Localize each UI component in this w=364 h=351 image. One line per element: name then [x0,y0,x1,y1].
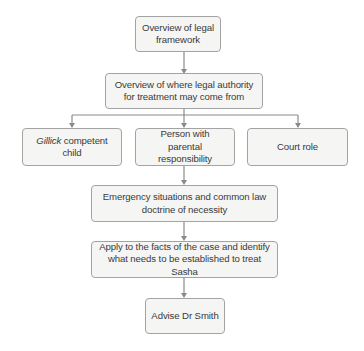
node-label: Overview of legal [142,22,214,35]
node-gillick-competent-child: Gillick competent child [22,128,122,166]
node-label: Apply to the facts of the case and ident… [96,241,273,254]
node-parental-responsibility: Person with parental responsibility [135,128,235,166]
node-label-italic: Gillick [36,135,61,146]
node-apply-facts: Apply to the facts of the case and ident… [91,241,278,278]
node-label: Emergency situations and common law [103,191,266,204]
node-legal-framework-overview: Overview of legal framework [135,16,221,52]
node-legal-authority-overview: Overview of where legal authority for tr… [105,73,263,109]
node-label: Overview of where legal authority [115,79,254,92]
node-court-role: Court role [247,128,348,166]
node-label: doctrine of necessity [103,204,266,217]
node-label: for treatment may come from [115,91,254,104]
node-advise-dr-smith: Advise Dr Smith [145,298,225,334]
node-label: parental responsibility [140,141,230,166]
node-label: Advise Dr Smith [151,310,218,323]
node-label: what needs to be established to treat Sa… [96,253,273,278]
node-emergency-necessity: Emergency situations and common law doct… [91,185,278,222]
node-label: Court role [277,141,318,154]
node-label: framework [142,34,214,47]
node-label: Person with [140,128,230,141]
node-label: competent child [61,135,107,159]
